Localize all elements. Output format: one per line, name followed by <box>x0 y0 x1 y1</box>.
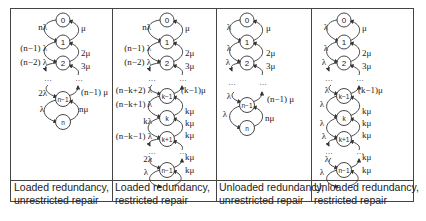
svg-text:…: … <box>179 147 187 156</box>
svg-text:nλ: nλ <box>142 22 152 32</box>
svg-text:…: … <box>356 147 364 156</box>
state-diagram-loaded-unrestricted: 0 1 2 n−1 n nλ (n−1) λ (n−2) λ 2λ λ μ 2μ… <box>20 13 108 130</box>
svg-text:nμ: nμ <box>265 113 275 123</box>
svg-text:0: 0 <box>342 16 347 25</box>
svg-text:2: 2 <box>342 59 347 68</box>
svg-text:2: 2 <box>61 59 66 68</box>
svg-text:λ: λ <box>144 167 149 177</box>
svg-text:λ: λ <box>227 22 232 32</box>
svg-text:λ: λ <box>223 109 228 119</box>
svg-text:kμ: kμ <box>362 165 372 175</box>
svg-text:k+1: k+1 <box>339 136 350 143</box>
svg-text:k−1: k−1 <box>162 93 173 100</box>
svg-text:2μ: 2μ <box>185 48 195 58</box>
svg-text:2μ: 2μ <box>362 48 372 58</box>
svg-text:(n−k+1) λ: (n−k+1) λ <box>116 99 153 109</box>
svg-text:3μ: 3μ <box>81 61 91 71</box>
svg-text:λ: λ <box>324 43 329 53</box>
svg-text:nλ: nλ <box>38 22 48 32</box>
svg-text:1: 1 <box>165 38 170 47</box>
state-diagram-unloaded-unrestricted: 0 1 2 n−1 n λ λ λ λ λ μ 2μ 3μ (n−1) μ nμ… <box>223 13 295 136</box>
svg-text:kλ: kλ <box>143 116 153 126</box>
svg-text:3μ: 3μ <box>185 61 195 71</box>
svg-text:…: … <box>75 74 83 83</box>
svg-text:λ: λ <box>320 167 325 177</box>
svg-text:…: … <box>148 74 156 83</box>
svg-text:λ: λ <box>325 85 330 95</box>
caption-unloaded-restricted: Unloaded redundancy, restricted repair <box>314 181 419 206</box>
caption-line: Unloaded redundancy, <box>314 181 419 194</box>
caption-line: Loaded redundancy, <box>115 181 210 194</box>
svg-text:kμ: kμ <box>185 130 195 140</box>
svg-text:kμ: kμ <box>362 118 372 128</box>
svg-text:2μ: 2μ <box>81 48 91 58</box>
svg-text:3μ: 3μ <box>266 61 276 71</box>
svg-text:k+1: k+1 <box>162 136 173 143</box>
svg-text:(n−k−1) λ: (n−k−1) λ <box>116 131 153 141</box>
svg-text:(k−1)μ: (k−1)μ <box>358 85 383 95</box>
svg-text:μ: μ <box>81 23 86 33</box>
svg-text:0: 0 <box>165 16 170 25</box>
svg-text:λ: λ <box>320 99 325 109</box>
svg-text:…: … <box>259 78 267 87</box>
svg-text:2λ: 2λ <box>38 88 48 98</box>
svg-text:(n−2) λ: (n−2) λ <box>20 57 47 67</box>
state-diagram-loaded-restricted: 0 1 2 k−1 k k+1 n−1 nλ (n−1) λ (n−2) λ (… <box>116 13 206 187</box>
svg-text:(n−2) λ: (n−2) λ <box>124 57 151 67</box>
svg-text:(n−k+2) λ: (n−k+2) λ <box>116 85 153 95</box>
svg-text:…: … <box>325 147 333 156</box>
svg-text:n: n <box>61 119 65 126</box>
svg-text:(n−1) λ: (n−1) λ <box>20 43 47 53</box>
svg-text:λ: λ <box>227 91 232 101</box>
caption-line: Unloaded redundancy, <box>219 181 324 194</box>
svg-text:1: 1 <box>342 38 347 47</box>
svg-text:kμ: kμ <box>185 106 195 116</box>
svg-text:(k−1)μ: (k−1)μ <box>181 85 206 95</box>
svg-text:λ: λ <box>324 22 329 32</box>
svg-text:(n−1) μ: (n−1) μ <box>81 87 108 97</box>
svg-text:n: n <box>245 125 249 132</box>
svg-text:λ: λ <box>322 131 327 141</box>
svg-text:k−1: k−1 <box>339 93 350 100</box>
svg-text:0: 0 <box>245 16 250 25</box>
svg-text:…: … <box>179 74 187 83</box>
svg-text:λ: λ <box>320 118 325 128</box>
caption-line: restricted repair <box>314 194 419 207</box>
svg-text:nμ: nμ <box>79 104 89 114</box>
svg-text:kμ: kμ <box>185 118 195 128</box>
svg-text:n−1: n−1 <box>161 167 172 174</box>
svg-text:1: 1 <box>245 38 250 47</box>
svg-text:μ: μ <box>185 23 190 33</box>
caption-line: restricted repair <box>115 194 210 207</box>
caption-unloaded-unrestricted: Unloaded redundancy, unrestricted repair <box>219 181 324 206</box>
svg-text:n−1: n−1 <box>241 102 252 109</box>
svg-text:1: 1 <box>61 38 66 47</box>
state-diagram-unloaded-restricted: 0 1 2 k−1 k k+1 n−1 λ λ λ λ λ λ λ λ λ μ … <box>320 13 383 187</box>
svg-text:kμ: kμ <box>185 165 195 175</box>
caption-line: unrestricted repair <box>219 194 324 207</box>
caption-loaded-restricted: Loaded redundancy, restricted repair <box>115 181 210 206</box>
svg-text:…: … <box>148 147 156 156</box>
svg-text:3μ: 3μ <box>362 61 372 71</box>
svg-text:(n−1) λ: (n−1) λ <box>124 43 151 53</box>
svg-text:…: … <box>325 74 333 83</box>
svg-text:2: 2 <box>165 59 170 68</box>
svg-text:λ: λ <box>226 57 231 67</box>
svg-text:kμ: kμ <box>362 106 372 116</box>
svg-text:…: … <box>44 74 52 83</box>
svg-text:n−1: n−1 <box>57 96 68 103</box>
svg-text:n−1: n−1 <box>338 167 349 174</box>
svg-text:2μ: 2μ <box>266 48 276 58</box>
svg-text:0: 0 <box>61 16 66 25</box>
svg-text:kμ: kμ <box>362 130 372 140</box>
svg-text:μ: μ <box>266 23 271 33</box>
svg-text:(n−1) μ: (n−1) μ <box>267 94 294 104</box>
svg-text:λ: λ <box>322 57 327 67</box>
caption-line: Loaded redundancy, <box>14 181 109 194</box>
svg-text:…: … <box>228 78 236 87</box>
svg-text:…: … <box>356 74 364 83</box>
svg-text:2: 2 <box>245 59 250 68</box>
svg-text:μ: μ <box>362 23 367 33</box>
svg-text:λ: λ <box>40 104 45 114</box>
caption-line: unrestricted repair <box>14 194 109 207</box>
